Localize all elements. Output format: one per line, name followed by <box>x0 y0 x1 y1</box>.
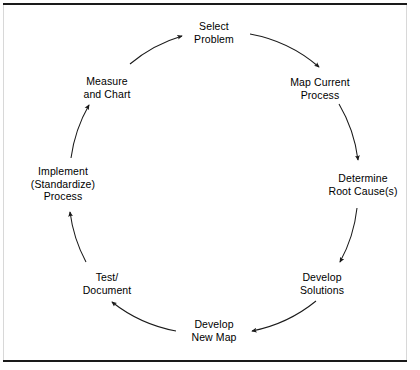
cycle-node-measure-and-chart: Measure and Chart <box>83 75 130 100</box>
arc-measure-and-chart-to-select-problem <box>130 36 182 64</box>
arc-develop-new-map-to-test-document <box>112 302 176 331</box>
process-improvement-cycle-figure: Select Problem Map Current Process Deter… <box>0 0 420 370</box>
arc-implement-standardize-process-to-measure-and-chart <box>71 105 89 158</box>
cycle-node-develop-solutions: Develop Solutions <box>300 271 344 296</box>
cycle-node-develop-new-map: Develop New Map <box>191 318 236 343</box>
arc-develop-solutions-to-develop-new-map <box>252 301 316 331</box>
arc-determine-root-causes-to-develop-solutions <box>340 208 357 262</box>
arc-map-current-process-to-determine-root-causes <box>339 104 358 160</box>
cycle-node-implement-standardize-process: Implement (Standardize) Process <box>31 165 95 203</box>
arc-test-document-to-implement-standardize-process <box>70 212 86 262</box>
cycle-node-map-current-process: Map Current Process <box>290 76 349 101</box>
cycle-node-select-problem: Select Problem <box>194 20 234 45</box>
cycle-node-test-document: Test/ Document <box>83 271 132 296</box>
cycle-node-determine-root-causes: Determine Root Cause(s) <box>329 172 398 197</box>
arc-select-problem-to-map-current-process <box>250 34 319 67</box>
